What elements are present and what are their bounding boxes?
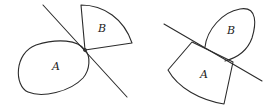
left-figure: A B — [18, 5, 132, 97]
diagram-svg: A B A B — [0, 0, 271, 107]
right-figure: A B — [164, 9, 262, 104]
right-label-b: B — [226, 24, 235, 37]
right-label-a: A — [199, 68, 208, 81]
left-separating-line — [43, 5, 127, 97]
left-label-a: A — [51, 60, 60, 73]
diagram-canvas: A B A B — [0, 0, 271, 107]
left-region-b-sector — [81, 5, 132, 50]
left-label-b: B — [97, 22, 106, 35]
